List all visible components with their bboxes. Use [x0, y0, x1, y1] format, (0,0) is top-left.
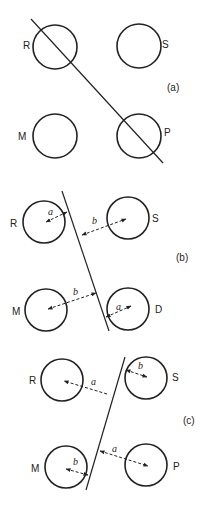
label-m: M	[18, 131, 26, 142]
circle-m	[45, 446, 87, 488]
panel-a: R S M P (a)	[18, 19, 179, 163]
circle-r	[23, 201, 65, 243]
circle-m	[33, 114, 77, 158]
circle-s	[125, 357, 167, 399]
label-r: R	[10, 218, 17, 229]
distance-label: a	[112, 443, 117, 454]
distance-arrow	[48, 293, 96, 309]
distance-arrow	[66, 469, 88, 475]
circle-s	[107, 197, 149, 239]
distance-label: b	[138, 360, 143, 371]
distance-label: b	[73, 286, 78, 297]
separating-line	[31, 19, 163, 163]
label-m: M	[31, 463, 39, 474]
circle-d	[107, 288, 149, 330]
panel-tag: (c)	[183, 415, 195, 426]
label-p: P	[164, 127, 171, 138]
panel-tag: (a)	[167, 82, 179, 93]
label-r: R	[29, 375, 36, 386]
circle-s	[117, 24, 161, 68]
distance-label: a	[91, 376, 96, 387]
diagram-canvas: R S M P (a) a b b a R S M D (b) a	[0, 0, 213, 514]
separating-line	[62, 191, 109, 331]
distance-label: b	[92, 215, 97, 226]
label-s: S	[152, 213, 159, 224]
distance-arrow	[82, 219, 126, 235]
distance-arrow	[126, 370, 147, 377]
circle-r	[41, 359, 83, 401]
panel-tag: (b)	[176, 252, 188, 263]
distance-arrow	[100, 451, 148, 466]
circle-p	[125, 444, 167, 486]
panel-b: a b b a R S M D (b)	[10, 191, 188, 331]
distance-label: b	[73, 456, 78, 467]
label-m: M	[12, 306, 20, 317]
label-d: D	[155, 304, 162, 315]
label-r: R	[23, 40, 30, 51]
panel-c: a b b a R S M P (c)	[29, 357, 195, 490]
distance-label: a	[116, 301, 121, 312]
label-s: S	[162, 39, 169, 50]
circle-m	[25, 289, 67, 331]
distance-label: a	[48, 206, 53, 217]
distance-arrow	[64, 381, 107, 394]
label-p: P	[173, 461, 180, 472]
label-s: S	[172, 372, 179, 383]
